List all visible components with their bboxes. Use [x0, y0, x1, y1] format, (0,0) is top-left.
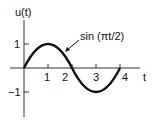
chart: u(t) t 1 2 3 4 1 −1 sin (πt/2)	[0, 0, 153, 125]
y-axis-label: u(t)	[15, 6, 32, 18]
x-tick-label-3: 3	[93, 71, 99, 83]
x-axis-label: t	[143, 71, 146, 83]
y-tick-label-pos: 1	[14, 38, 20, 50]
y-tick-label-neg: −1	[8, 86, 21, 98]
curve-label: sin (πt/2)	[80, 30, 124, 42]
x-tick-label-4: 4	[122, 71, 128, 83]
x-tick-label-2: 2	[62, 71, 68, 83]
x-tick-label-1: 1	[44, 71, 50, 83]
